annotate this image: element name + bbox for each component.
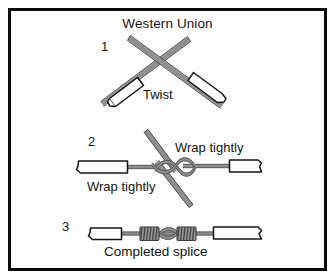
step-2-number: 2 [88, 135, 95, 148]
step-1-number: 1 [101, 40, 108, 53]
wire-splice-figure: .wire { stroke: #8f8f8f; stroke-width: 5… [0, 0, 335, 279]
figure-title: Western Union [0, 17, 335, 31]
step-2-caption-bottom: Wrap tightly [87, 180, 155, 193]
step-3-number: 3 [62, 220, 69, 233]
step-2-caption-top: Wrap tightly [175, 141, 243, 154]
figure-border [8, 8, 327, 271]
step-3-caption: Completed splice [104, 245, 208, 259]
step-1-caption: Twist [143, 88, 173, 101]
